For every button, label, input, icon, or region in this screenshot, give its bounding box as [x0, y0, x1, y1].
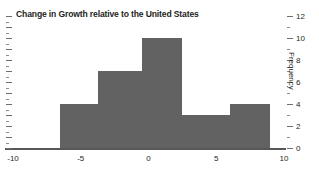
left-axis-minor-tick [6, 55, 9, 56]
y-tick-label: 8 [296, 56, 300, 65]
y-tick-label: 10 [296, 34, 305, 43]
x-tick-label: -5 [77, 154, 84, 163]
left-axis-minor-tick [6, 132, 9, 133]
left-axis-major-tick [6, 60, 12, 61]
x-tick-label: -10 [7, 154, 19, 163]
left-axis-major-tick [6, 38, 12, 39]
histogram-bar [182, 115, 229, 148]
histogram-bar [142, 38, 183, 148]
histogram-bar [230, 104, 271, 148]
y-tick-label: 4 [296, 100, 300, 109]
right-axis-minor-tick [287, 137, 290, 138]
left-axis-minor-tick [6, 77, 9, 78]
right-axis-major-tick [287, 104, 293, 105]
left-axis-major-tick [6, 137, 12, 138]
right-axis-major-tick [287, 16, 293, 17]
left-axis-major-tick [6, 82, 12, 83]
histogram-figure: Change in Growth relative to the United … [0, 0, 319, 180]
left-axis-minor-tick [6, 143, 9, 144]
left-axis-minor-tick [6, 99, 9, 100]
left-axis-major-tick [6, 126, 12, 127]
x-tick-label: 10 [280, 154, 289, 163]
right-axis-minor-tick [287, 93, 290, 94]
y-tick-label: 12 [296, 12, 305, 21]
histogram-bar [98, 71, 142, 148]
left-axis-minor-tick [6, 22, 9, 23]
x-axis-line [5, 148, 286, 150]
x-tick-label: 0 [146, 154, 150, 163]
left-axis-major-tick [6, 49, 12, 50]
y-axis-label: Frequency [287, 52, 296, 90]
left-axis-major-tick [6, 27, 12, 28]
right-axis-minor-tick [287, 27, 290, 28]
y-tick-label: 0 [296, 144, 300, 153]
left-axis-minor-tick [6, 121, 9, 122]
left-axis-minor-tick [6, 88, 9, 89]
plot-area [0, 0, 319, 180]
right-axis-major-tick [287, 38, 293, 39]
y-tick-label: 2 [296, 122, 300, 131]
left-axis-major-tick [6, 71, 12, 72]
right-axis-major-tick [287, 148, 293, 149]
left-axis-major-tick [6, 148, 12, 149]
left-axis-minor-tick [6, 44, 9, 45]
right-axis-major-tick [287, 126, 293, 127]
right-axis-minor-tick [287, 115, 290, 116]
right-axis-minor-tick [287, 49, 290, 50]
left-axis-minor-tick [6, 66, 9, 67]
left-axis-minor-tick [6, 110, 9, 111]
x-tick-label: 5 [214, 154, 218, 163]
left-axis-major-tick [6, 16, 12, 17]
left-axis-major-tick [6, 115, 12, 116]
histogram-bar [60, 104, 97, 148]
left-axis-major-tick [6, 104, 12, 105]
left-axis-minor-tick [6, 33, 9, 34]
y-tick-label: 6 [296, 78, 300, 87]
left-axis-major-tick [6, 93, 12, 94]
